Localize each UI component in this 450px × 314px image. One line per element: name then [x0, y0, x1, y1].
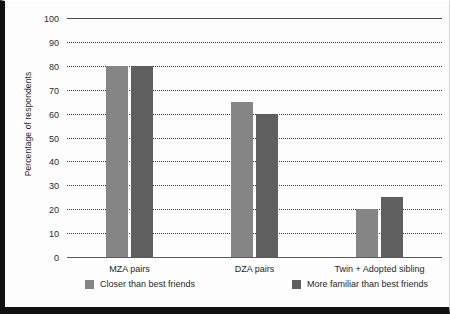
legend-item[interactable]: Closer than best friends [85, 279, 195, 289]
bar-group: DZA pairs [192, 18, 317, 257]
chart-legend: Closer than best friendsMore familiar th… [67, 279, 442, 289]
legend-label: Closer than best friends [100, 279, 195, 289]
bar[interactable] [356, 209, 378, 257]
x-tick-label: DZA pairs [235, 264, 275, 274]
y-tick-label: 70 [49, 86, 59, 96]
bar-groups: MZA pairsDZA pairsTwin + Adopted sibling [67, 18, 442, 257]
legend-swatch-icon [292, 280, 301, 289]
bar[interactable] [131, 66, 153, 257]
bar[interactable] [381, 197, 403, 257]
y-tick-label: 10 [49, 229, 59, 239]
y-axis-title: Percentage of respondents [23, 39, 33, 209]
bar-group: Twin + Adopted sibling [317, 18, 442, 257]
y-tick-label: 40 [49, 157, 59, 167]
y-tick-label: 50 [49, 134, 59, 144]
bar[interactable] [231, 102, 253, 257]
x-tick-label: Twin + Adopted sibling [335, 264, 425, 274]
bar[interactable] [256, 114, 278, 257]
x-tick-label: MZA pairs [109, 264, 150, 274]
gridline-0: 0 [67, 257, 442, 258]
y-tick-label: 20 [49, 205, 59, 215]
bar-group: MZA pairs [67, 18, 192, 257]
y-tick-label: 0 [54, 253, 59, 263]
legend-swatch-icon [85, 280, 94, 289]
y-tick-label: 100 [44, 14, 59, 24]
legend-item[interactable]: More familiar than best friends [292, 279, 428, 289]
plot-area: 1009080706050403020100 MZA pairsDZA pair… [67, 18, 442, 257]
y-tick-label: 90 [49, 38, 59, 48]
chart-figure: Percentage of respondents 10090807060504… [0, 0, 450, 314]
y-tick-label: 30 [49, 181, 59, 191]
legend-label: More familiar than best friends [307, 279, 428, 289]
y-tick-label: 80 [49, 62, 59, 72]
bar[interactable] [106, 66, 128, 257]
y-tick-label: 60 [49, 110, 59, 120]
